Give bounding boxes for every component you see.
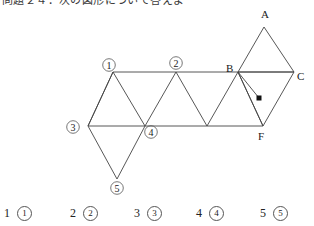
vertex-label-b: B bbox=[226, 62, 233, 74]
circled-label-1-text: 1 bbox=[107, 60, 112, 71]
answer-option-3[interactable]: 33 bbox=[134, 205, 162, 221]
answer-option-4-circled: 4 bbox=[209, 206, 224, 221]
answer-option-1-number: 1 bbox=[4, 206, 10, 220]
segment-cf bbox=[263, 72, 294, 126]
vertex-label-f: F bbox=[258, 130, 264, 142]
circled-label-2: 2 bbox=[170, 57, 183, 70]
figure-page: 問題２４．次の図形について答えよ A B C F 1 bbox=[0, 0, 314, 226]
zigzag-strip bbox=[88, 72, 263, 126]
circled-label-2-text: 2 bbox=[174, 58, 179, 69]
answer-options-row: 11 22 33 44 55 bbox=[0, 205, 314, 226]
triangle-abc bbox=[238, 27, 294, 72]
vertex-label-c: C bbox=[297, 70, 304, 82]
answer-option-1-circled: 1 bbox=[17, 206, 32, 221]
answer-option-2-circled: 2 bbox=[83, 206, 98, 221]
circled-label-5-text: 5 bbox=[115, 183, 120, 194]
answer-option-4[interactable]: 44 bbox=[196, 205, 224, 221]
answer-option-5[interactable]: 55 bbox=[260, 205, 288, 221]
answer-option-2-number: 2 bbox=[70, 206, 76, 220]
answer-option-2[interactable]: 22 bbox=[70, 205, 98, 221]
circled-label-3-text: 3 bbox=[71, 122, 76, 133]
point-marker-dot bbox=[257, 96, 262, 101]
circled-label-4-text: 4 bbox=[149, 127, 154, 138]
strip-left-edge bbox=[88, 72, 113, 126]
circled-label-4: 4 bbox=[145, 126, 158, 139]
answer-option-3-circled: 3 bbox=[147, 206, 162, 221]
geometry-diagram: A B C F 1 2 3 4 5 bbox=[0, 0, 314, 200]
answer-option-5-number: 5 bbox=[260, 206, 266, 220]
circled-label-5: 5 bbox=[111, 182, 124, 195]
answer-option-3-number: 3 bbox=[134, 206, 140, 220]
vertex-label-a: A bbox=[261, 8, 269, 20]
circled-label-3: 3 bbox=[67, 121, 80, 134]
answer-option-5-circled: 5 bbox=[273, 206, 288, 221]
answer-option-4-number: 4 bbox=[196, 206, 202, 220]
answer-option-1[interactable]: 11 bbox=[4, 205, 32, 221]
circled-label-1: 1 bbox=[103, 59, 116, 72]
triangle-bottom-five bbox=[88, 126, 145, 179]
